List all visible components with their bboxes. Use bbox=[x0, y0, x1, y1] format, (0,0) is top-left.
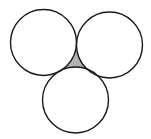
right-circle bbox=[77, 12, 143, 78]
left-circle bbox=[11, 10, 77, 76]
bottom-circle bbox=[43, 67, 109, 133]
tangent-circles-diagram bbox=[0, 0, 151, 139]
